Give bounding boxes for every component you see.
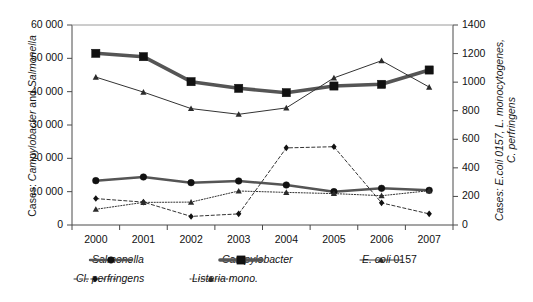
data-point-circle — [108, 257, 115, 264]
data-point-square — [187, 78, 195, 86]
legend-item-inner: Salmonella — [88, 253, 144, 265]
data-point-circle — [283, 182, 290, 189]
left-axis-tick-label: 30 000 — [15, 118, 63, 130]
data-point-square — [425, 66, 433, 74]
right-axis-tick-label: 1200 — [462, 47, 510, 59]
right-axis-tick-label: 1000 — [462, 75, 510, 87]
legend-item[interactable]: Campylobacter — [218, 253, 293, 265]
data-point-triangle — [93, 74, 99, 80]
data-point-triangle — [378, 58, 384, 64]
x-axis-tick-label: 2007 — [406, 233, 452, 245]
legend-swatch-circle-icon — [88, 253, 134, 267]
data-point-square — [282, 89, 290, 97]
series-line — [96, 147, 429, 217]
series-cl-perfringens — [93, 143, 432, 219]
x-axis-tick-label: 2006 — [359, 233, 405, 245]
legend-item[interactable]: E. coli 0157 — [358, 253, 417, 265]
left-axis-tick-label: 60 000 — [15, 18, 63, 30]
legend-item-inner: E. coli 0157 — [358, 253, 417, 265]
right-axis-tick-label: 400 — [462, 161, 510, 173]
data-point-square — [330, 82, 338, 90]
x-axis-tick-label: 2003 — [216, 233, 262, 245]
data-point-triangle — [93, 206, 99, 212]
data-point-circle — [235, 178, 242, 185]
data-point-square — [237, 256, 245, 264]
left-axis-tick-label: 50 000 — [15, 51, 63, 63]
left-axis-tick-label: 0 — [15, 218, 63, 230]
data-point-diamond — [92, 276, 97, 283]
data-point-diamond — [188, 213, 193, 220]
x-axis-tick-label: 2005 — [311, 233, 357, 245]
data-point-circle — [93, 177, 100, 184]
data-point-square — [139, 53, 147, 61]
right-axis-tick-label: 200 — [462, 189, 510, 201]
x-axis-tick-label: 2004 — [263, 233, 309, 245]
data-point-diamond — [426, 211, 431, 218]
data-point-triangle — [283, 105, 289, 111]
legend-swatch-diamond-icon — [72, 272, 118, 286]
left-axis-tick-label: 10 000 — [15, 185, 63, 197]
data-point-square — [235, 84, 243, 92]
data-point-triangle — [426, 84, 432, 90]
data-point-circle — [188, 179, 195, 186]
data-point-square — [92, 49, 100, 57]
legend-swatch-square-icon — [218, 253, 264, 267]
legend-item[interactable]: Listeria mono. — [188, 272, 258, 284]
x-axis-tick-label: 2000 — [73, 233, 119, 245]
series-campylobacter — [92, 49, 434, 97]
left-axis-tick-label: 20 000 — [15, 151, 63, 163]
legend-swatch-triangle-icon — [188, 272, 234, 286]
right-axis-tick-label: 800 — [462, 104, 510, 116]
left-axis-tick-label: 40 000 — [15, 85, 63, 97]
x-axis-tick-label: 2001 — [120, 233, 166, 245]
data-point-circle — [378, 185, 385, 192]
legend-swatch-triangle-icon — [358, 253, 404, 267]
data-point-square — [377, 80, 385, 88]
chart-container: Cases: Campylobacter and Salmonella Case… — [0, 0, 533, 302]
data-point-circle — [140, 174, 147, 181]
legend-item[interactable]: Salmonella — [88, 253, 144, 265]
right-axis-tick-label: 0 — [462, 218, 510, 230]
legend-item[interactable]: Cl. perfringens — [72, 272, 144, 284]
legend-item-inner: Campylobacter — [218, 253, 293, 265]
right-axis-tick-label: 1400 — [462, 18, 510, 30]
legend-item-inner: Cl. perfringens — [72, 272, 144, 284]
right-axis-tick-label: 600 — [462, 132, 510, 144]
legend-item-inner: Listeria mono. — [188, 272, 258, 284]
data-point-diamond — [93, 195, 98, 202]
x-axis-tick-label: 2002 — [168, 233, 214, 245]
